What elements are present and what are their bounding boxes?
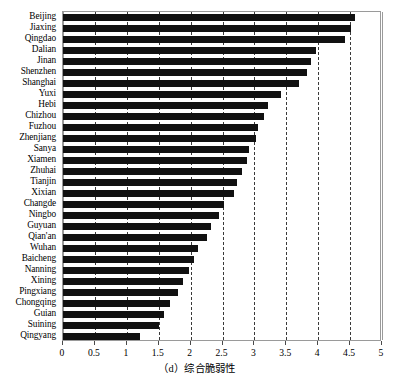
x-label-4: 4: [315, 346, 320, 359]
x-label-1-5: 1.5: [152, 346, 164, 359]
bar-zhenjiang: [63, 135, 256, 142]
gridline-5: [382, 12, 383, 340]
bar-fill: [63, 113, 264, 120]
bar-qingdao: [63, 36, 345, 43]
category-label-chizhou: Chizhou: [0, 110, 56, 121]
bar-qingyang: [63, 333, 140, 340]
category-label-xixian: Xixian: [0, 187, 56, 198]
x-tick-0: [62, 341, 63, 345]
bar-fill: [63, 168, 242, 175]
vulnerability-bar-chart: BeijingJiaxingQingdaoDalianJinanShenzhen…: [0, 0, 394, 381]
bar-wuhan: [63, 245, 198, 252]
x-label-5: 5: [379, 346, 384, 359]
category-label-chongqing: Chongqing: [0, 297, 56, 308]
bar-fill: [63, 322, 159, 329]
category-label-qingdao: Qingdao: [0, 33, 56, 44]
bar-fill: [63, 245, 198, 252]
bar-fuzhou: [63, 124, 258, 131]
bar-fill: [63, 124, 258, 131]
bar-guyuan: [63, 223, 211, 230]
category-label-shanghai: Shanghai: [0, 77, 56, 88]
bar-sanya: [63, 146, 249, 153]
bar-chongqing: [63, 300, 170, 307]
x-tick-4-5: [349, 341, 350, 345]
bar-nanning: [63, 267, 189, 274]
x-tick-2: [190, 341, 191, 345]
category-label-guian: Guian: [0, 308, 56, 319]
category-label-qingyang: Qingyang: [0, 330, 56, 341]
x-label-2: 2: [187, 346, 192, 359]
bar-fill: [63, 179, 237, 186]
bar-changde: [63, 201, 224, 208]
bar-chizhou: [63, 113, 264, 120]
bar-zhuhai: [63, 168, 242, 175]
x-tick-0-5: [94, 341, 95, 345]
bar-jinan: [63, 58, 311, 65]
bar-shanghai: [63, 80, 299, 87]
category-label-qian-an: Qian'an: [0, 231, 56, 242]
category-label-shenzhen: Shenzhen: [0, 66, 56, 77]
category-label-zhenjiang: Zhenjiang: [0, 132, 56, 143]
x-tick-1: [126, 341, 127, 345]
category-label-nanning: Nanning: [0, 264, 56, 275]
x-label-0-5: 0.5: [88, 346, 100, 359]
x-axis-tick-labels: 00.511.522.533.544.55: [62, 346, 381, 360]
bar-fill: [63, 102, 268, 109]
category-label-xining: Xining: [0, 275, 56, 286]
bar-fill: [63, 278, 183, 285]
bar-jiaxing: [63, 25, 351, 32]
x-label-2-5: 2.5: [216, 346, 228, 359]
bar-fill: [63, 333, 140, 340]
bar-xining: [63, 278, 183, 285]
category-label-hebi: Hebi: [0, 99, 56, 110]
category-label-jiaxing: Jiaxing: [0, 22, 56, 33]
bar-fill: [63, 47, 316, 54]
category-label-wuhan: Wuhan: [0, 242, 56, 253]
bar-fill: [63, 91, 281, 98]
x-tick-5: [381, 341, 382, 345]
bar-fill: [63, 311, 164, 318]
bar-fill: [63, 201, 224, 208]
bar-shenzhen: [63, 69, 307, 76]
category-axis-labels: BeijingJiaxingQingdaoDalianJinanShenzhen…: [0, 11, 59, 341]
x-label-0: 0: [60, 346, 65, 359]
category-label-sanya: Sanya: [0, 143, 56, 154]
bar-fill: [63, 14, 355, 21]
bar-fill: [63, 300, 170, 307]
x-tick-1-5: [158, 341, 159, 345]
bar-fill: [63, 146, 249, 153]
x-label-3-5: 3.5: [279, 346, 291, 359]
x-tick-3: [253, 341, 254, 345]
x-tick-3-5: [285, 341, 286, 345]
bar-fill: [63, 223, 211, 230]
bar-hebi: [63, 102, 268, 109]
category-label-xiamen: Xiamen: [0, 154, 56, 165]
x-tick-2-5: [222, 341, 223, 345]
bar-series: [63, 12, 380, 340]
bar-fill: [63, 25, 351, 32]
bar-baicheng: [63, 256, 194, 263]
bar-guian: [63, 311, 164, 318]
bar-yuxi: [63, 91, 281, 98]
bar-fill: [63, 135, 256, 142]
bar-fill: [63, 190, 234, 197]
category-label-jinan: Jinan: [0, 55, 56, 66]
bar-tianjin: [63, 179, 237, 186]
x-label-1: 1: [123, 346, 128, 359]
category-label-dalian: Dalian: [0, 44, 56, 55]
category-label-beijing: Beijing: [0, 11, 56, 22]
bar-suining: [63, 322, 159, 329]
bar-xixian: [63, 190, 234, 197]
category-label-tianjin: Tianjin: [0, 176, 56, 187]
bar-fill: [63, 36, 345, 43]
bar-qian-an: [63, 234, 207, 241]
category-label-fuzhou: Fuzhou: [0, 121, 56, 132]
bar-fill: [63, 289, 178, 296]
bar-fill: [63, 267, 189, 274]
bar-beijing: [63, 14, 355, 21]
bar-xiamen: [63, 157, 247, 164]
bar-dalian: [63, 47, 316, 54]
bar-pingxiang: [63, 289, 178, 296]
bar-fill: [63, 58, 311, 65]
bar-ningbo: [63, 212, 219, 219]
